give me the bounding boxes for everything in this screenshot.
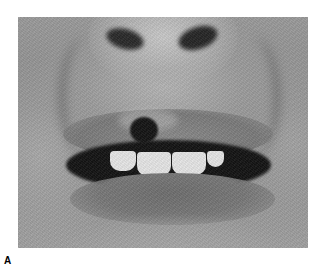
film-grain [18, 17, 308, 248]
clinical-photo [18, 17, 308, 248]
panel-label: A [4, 255, 11, 266]
